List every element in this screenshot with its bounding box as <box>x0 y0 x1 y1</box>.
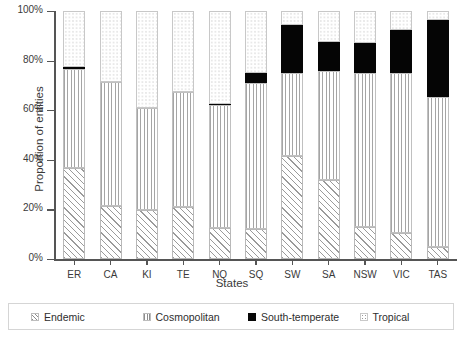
y-axis-line <box>54 11 56 260</box>
bar-segment-endemic[interactable] <box>390 233 412 259</box>
legend-item-endemic[interactable]: Endemic <box>9 311 125 323</box>
bar-segment-endemic[interactable] <box>100 206 122 259</box>
bar-segment-tropical[interactable] <box>136 11 158 108</box>
legend-item-cosmopolitan[interactable]: Cosmopolitan <box>125 311 237 323</box>
legend-item-label: Tropical <box>373 311 410 323</box>
x-axis-tick-label: SQ <box>238 269 274 280</box>
x-axis-tick-mark <box>146 259 147 265</box>
legend-item-southtemperate[interactable]: South-temperate <box>236 311 342 323</box>
y-axis-tick: 100% <box>47 11 54 12</box>
bar-segment-cosmopolitan[interactable] <box>100 82 122 206</box>
bar-er[interactable] <box>63 11 85 259</box>
legend-item-tropical[interactable]: Tropical <box>342 311 454 323</box>
bar-segment-endemic[interactable] <box>209 228 231 259</box>
x-axis-tick-mark <box>255 259 256 265</box>
x-axis-tick-label: TE <box>165 269 201 280</box>
bar-ki[interactable] <box>136 11 158 259</box>
bar-segment-southtemperate[interactable] <box>354 43 376 73</box>
bar-segment-cosmopolitan[interactable] <box>63 69 85 168</box>
cosmopolitan-swatch-icon <box>143 313 151 321</box>
y-axis-tick: 60% <box>47 110 54 111</box>
bar-segment-endemic[interactable] <box>318 180 340 259</box>
bar-segment-endemic[interactable] <box>172 207 194 259</box>
y-axis-tick-label: 80% <box>23 54 43 65</box>
x-axis-tick-mark <box>401 259 402 265</box>
bar-sw[interactable] <box>281 11 303 259</box>
bar-te[interactable] <box>172 11 194 259</box>
x-axis-tick-mark <box>328 259 329 265</box>
y-axis-tick-label: 20% <box>23 202 43 213</box>
bar-segment-tropical[interactable] <box>390 11 412 30</box>
bar-segment-tropical[interactable] <box>281 11 303 25</box>
bar-vic[interactable] <box>390 11 412 259</box>
bar-segment-cosmopolitan[interactable] <box>318 71 340 181</box>
bar-segment-endemic[interactable] <box>354 227 376 259</box>
legend-item-label: South-temperate <box>261 311 339 323</box>
x-axis-tick-mark <box>364 259 365 265</box>
x-axis-tick-label: ER <box>56 269 92 280</box>
endemic-swatch-icon <box>31 313 39 321</box>
bar-nq[interactable] <box>209 11 231 259</box>
y-axis-tick-mark <box>47 11 54 12</box>
x-axis-tick-label: NSW <box>347 269 383 280</box>
bar-segment-southtemperate[interactable] <box>245 73 267 83</box>
tropical-swatch-icon <box>360 313 368 321</box>
stacked-bar-chart: Proportion of entities States 0%20%40%60… <box>0 0 464 342</box>
bar-segment-cosmopolitan[interactable] <box>427 97 449 247</box>
x-axis-tick-mark <box>183 259 184 265</box>
y-axis-tick: 80% <box>47 61 54 62</box>
bar-segment-tropical[interactable] <box>318 11 340 42</box>
x-axis-tick-label: KI <box>129 269 165 280</box>
y-axis-tick-mark <box>47 61 54 62</box>
x-axis-tick-mark <box>292 259 293 265</box>
bar-segment-tropical[interactable] <box>427 11 449 20</box>
chart-legend: EndemicCosmopolitanSouth-temperateTropic… <box>8 303 454 330</box>
y-axis-tick-label: 0% <box>29 252 43 263</box>
bar-segment-cosmopolitan[interactable] <box>136 108 158 210</box>
bar-tas[interactable] <box>427 11 449 259</box>
y-axis-tick-label: 60% <box>23 103 43 114</box>
bar-segment-cosmopolitan[interactable] <box>245 83 267 229</box>
bar-segment-tropical[interactable] <box>245 11 267 73</box>
x-axis-tick-label: TAS <box>420 269 456 280</box>
bar-ca[interactable] <box>100 11 122 259</box>
plot-area: 0%20%40%60%80%100%ERCAKITENQSQSWSANSWVIC… <box>56 11 456 259</box>
bar-segment-cosmopolitan[interactable] <box>209 105 231 228</box>
bar-segment-southtemperate[interactable] <box>318 42 340 71</box>
bar-sa[interactable] <box>318 11 340 259</box>
bar-segment-endemic[interactable] <box>136 210 158 259</box>
bar-segment-tropical[interactable] <box>63 11 85 67</box>
bar-segment-cosmopolitan[interactable] <box>354 73 376 227</box>
y-axis-tick: 40% <box>47 160 54 161</box>
y-axis-tick-label: 100% <box>17 4 43 15</box>
southtemperate-swatch-icon <box>248 313 256 321</box>
bar-sq[interactable] <box>245 11 267 259</box>
bar-nsw[interactable] <box>354 11 376 259</box>
bar-segment-endemic[interactable] <box>427 247 449 259</box>
bar-segment-southtemperate[interactable] <box>427 20 449 97</box>
legend-item-label: Cosmopolitan <box>156 311 220 323</box>
y-axis-tick-mark <box>47 160 54 161</box>
bar-segment-endemic[interactable] <box>281 156 303 259</box>
bar-segment-cosmopolitan[interactable] <box>281 73 303 156</box>
bar-segment-southtemperate[interactable] <box>281 25 303 73</box>
x-axis-tick-label: VIC <box>383 269 419 280</box>
y-axis-tick-mark <box>47 209 54 210</box>
bar-segment-tropical[interactable] <box>354 11 376 43</box>
y-axis-tick-mark <box>47 110 54 111</box>
bar-segment-southtemperate[interactable] <box>63 67 85 69</box>
bar-segment-tropical[interactable] <box>209 11 231 104</box>
x-axis-tick-label: NQ <box>201 269 237 280</box>
bar-segment-endemic[interactable] <box>245 229 267 259</box>
bar-segment-cosmopolitan[interactable] <box>172 92 194 207</box>
legend-item-label: Endemic <box>44 311 85 323</box>
x-axis-tick-label: CA <box>92 269 128 280</box>
bar-segment-cosmopolitan[interactable] <box>390 73 412 233</box>
bar-segment-endemic[interactable] <box>63 168 85 259</box>
bar-segment-tropical[interactable] <box>172 11 194 92</box>
x-axis-tick-label: SW <box>274 269 310 280</box>
bar-segment-southtemperate[interactable] <box>390 30 412 73</box>
x-axis-tick-mark <box>74 259 75 265</box>
x-axis-tick-mark <box>219 259 220 265</box>
bar-segment-tropical[interactable] <box>100 11 122 82</box>
